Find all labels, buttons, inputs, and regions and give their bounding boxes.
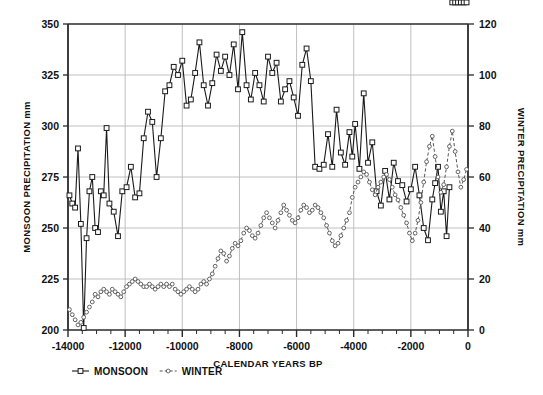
data-point-marker <box>447 185 452 190</box>
data-point-marker <box>422 180 426 184</box>
data-point-marker <box>84 236 89 241</box>
data-point-marker <box>176 73 181 78</box>
data-point-marker <box>453 150 457 154</box>
data-point-marker <box>78 369 83 374</box>
data-point-marker <box>396 198 400 202</box>
data-point-marker <box>359 175 363 179</box>
data-point-marker <box>322 216 326 220</box>
data-point-marker <box>296 113 301 118</box>
data-point-marker <box>390 185 394 189</box>
data-point-marker <box>111 209 116 214</box>
data-point-marker <box>448 145 452 149</box>
data-point-marker <box>336 241 340 245</box>
data-point-marker <box>82 315 86 319</box>
data-point-marker <box>410 239 414 243</box>
data-point-marker <box>88 305 92 309</box>
legend-label: MONSOON <box>94 366 148 377</box>
data-point-marker <box>343 162 348 167</box>
data-point-marker <box>439 190 443 194</box>
data-point-marker <box>347 130 352 135</box>
y2-tick-label: 20 <box>479 273 491 285</box>
data-point-marker <box>445 165 449 169</box>
data-point-marker <box>366 160 371 165</box>
data-point-marker <box>399 206 403 210</box>
x-axis-title: CALENDAR YEARS BP <box>213 358 323 369</box>
data-point-marker <box>299 208 303 212</box>
data-point-marker <box>276 218 280 222</box>
data-point-marker <box>205 282 209 286</box>
data-point-marker <box>231 42 236 47</box>
y2-tick-label: 0 <box>479 324 485 336</box>
data-point-marker <box>73 205 78 210</box>
x-tick-label: 0 <box>465 340 471 352</box>
data-point-marker <box>96 230 101 235</box>
chart-figure: 200225250275300325350020406080100120-140… <box>0 0 543 395</box>
precipitation-line-chart: 200225250275300325350020406080100120-140… <box>0 0 543 395</box>
data-point-marker <box>104 126 109 131</box>
data-point-marker <box>464 0 469 5</box>
data-point-marker <box>288 213 292 217</box>
x-tick-label: -10000 <box>166 340 199 352</box>
data-point-marker <box>218 69 223 74</box>
data-point-marker <box>163 89 168 94</box>
data-point-marker <box>196 287 200 291</box>
y2-tick-label: 80 <box>479 120 491 132</box>
data-point-marker <box>310 208 314 212</box>
data-point-marker <box>67 193 72 198</box>
data-point-marker <box>291 95 296 100</box>
y2-tick-label: 100 <box>479 69 497 81</box>
data-point-marker <box>413 231 417 235</box>
y-tick-label: 275 <box>41 171 59 183</box>
data-point-marker <box>325 224 329 228</box>
data-point-marker <box>225 259 229 263</box>
data-point-marker <box>128 164 133 169</box>
data-point-marker <box>197 40 202 45</box>
data-point-marker <box>465 167 469 171</box>
data-point-marker <box>353 185 357 189</box>
y-tick-label: 250 <box>41 222 59 234</box>
data-point-marker <box>421 226 426 231</box>
data-point-marker <box>150 120 155 125</box>
data-point-marker <box>413 164 418 169</box>
x-tick-label: -6000 <box>283 340 310 352</box>
data-point-marker <box>244 83 249 88</box>
data-point-marker <box>167 83 172 88</box>
data-point-marker <box>96 295 100 299</box>
y-tick-label: 350 <box>41 18 59 30</box>
data-point-marker <box>81 326 86 331</box>
data-point-marker <box>419 201 423 205</box>
data-point-marker <box>456 170 460 174</box>
data-point-marker <box>193 71 198 76</box>
data-point-marker <box>236 87 241 92</box>
data-point-marker <box>305 206 309 210</box>
data-point-marker <box>236 244 240 248</box>
data-point-marker <box>326 132 331 137</box>
data-point-marker <box>122 290 126 294</box>
data-point-marker <box>378 203 383 208</box>
data-point-marker <box>210 272 214 276</box>
data-point-marker <box>158 136 163 141</box>
data-point-marker <box>248 97 253 102</box>
data-point-marker <box>90 300 94 304</box>
data-point-marker <box>356 180 360 184</box>
data-point-marker <box>279 211 283 215</box>
data-point-marker <box>459 185 463 189</box>
data-point-marker <box>227 73 232 78</box>
data-point-marker <box>141 136 146 141</box>
data-point-marker <box>270 221 274 225</box>
data-point-marker <box>262 216 266 220</box>
data-point-marker <box>388 178 392 182</box>
data-point-marker <box>426 238 431 243</box>
y2-axis-title: WINTER PRECIPITATION mm <box>516 108 527 247</box>
data-point-marker <box>253 236 257 240</box>
data-point-marker <box>304 46 309 51</box>
x-tick-label: -8000 <box>226 340 253 352</box>
data-point-marker <box>450 129 454 133</box>
data-point-marker <box>404 199 409 204</box>
y-tick-label: 200 <box>41 324 59 336</box>
data-point-marker <box>228 254 232 258</box>
data-point-marker <box>214 52 219 57</box>
data-point-marker <box>283 87 288 92</box>
data-point-marker <box>257 83 262 88</box>
data-point-marker <box>365 173 369 177</box>
